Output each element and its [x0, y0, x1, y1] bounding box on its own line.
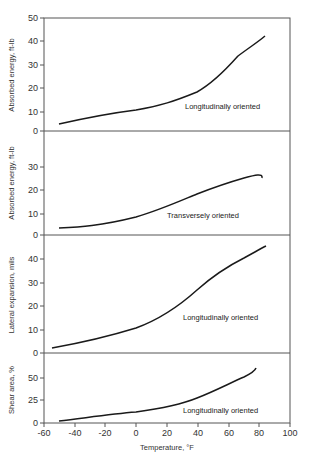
panel-1-annotation: Longitudinally oriented — [185, 102, 260, 111]
svg-text:0: 0 — [33, 348, 38, 358]
y-tick-marks — [40, 18, 44, 423]
panel-4-ylabel: Shear area, % — [7, 366, 16, 414]
svg-text:20: 20 — [28, 83, 38, 93]
panel-3-curve — [52, 246, 266, 348]
x-axis-label: Temperature, °F — [140, 443, 194, 452]
svg-text:20: 20 — [162, 428, 172, 438]
panel-1-ylabel: Absorbed energy, ft-lb — [7, 38, 16, 111]
svg-text:0: 0 — [133, 428, 138, 438]
svg-text:40: 40 — [193, 428, 203, 438]
panel-2-ylabel: Absorbed energy, ft-lb — [7, 146, 16, 219]
svg-text:-40: -40 — [68, 428, 81, 438]
svg-text:-60: -60 — [37, 428, 50, 438]
svg-text:25: 25 — [28, 395, 38, 405]
panel-2-yticks: 30 20 10 0 — [28, 162, 38, 240]
svg-text:0: 0 — [33, 126, 38, 136]
x-tick-marks — [44, 423, 290, 427]
svg-text:40: 40 — [28, 254, 38, 264]
svg-text:-20: -20 — [98, 428, 111, 438]
plot-frame — [44, 18, 290, 423]
svg-text:10: 10 — [28, 209, 38, 219]
x-tick-labels: -60 -40 -20 0 20 40 60 80 100 — [37, 428, 297, 438]
panel-3-annotation: Longitudinally oriented — [183, 313, 258, 322]
svg-text:10: 10 — [28, 325, 38, 335]
svg-text:50: 50 — [28, 373, 38, 383]
svg-text:30: 30 — [28, 278, 38, 288]
panel-3-ylabel: Lateral expansion, mils — [7, 256, 16, 333]
svg-text:20: 20 — [28, 301, 38, 311]
panel-1-yticks: 50 40 30 20 10 0 — [28, 13, 38, 136]
svg-text:40: 40 — [28, 36, 38, 46]
stacked-charpy-chart: 50 40 30 20 10 0 30 20 10 0 40 30 20 10 … — [0, 0, 310, 463]
svg-text:80: 80 — [254, 428, 264, 438]
svg-text:30: 30 — [28, 162, 38, 172]
panel-2-curve — [59, 175, 262, 228]
svg-text:60: 60 — [224, 428, 234, 438]
svg-text:100: 100 — [282, 428, 297, 438]
svg-text:50: 50 — [28, 13, 38, 23]
svg-text:0: 0 — [33, 418, 38, 428]
svg-text:0: 0 — [33, 230, 38, 240]
panel-4-annotation: Longitudinally oriented — [183, 406, 258, 415]
svg-text:10: 10 — [28, 107, 38, 117]
panel-4-yticks: 50 25 0 — [28, 373, 38, 428]
panel-3-yticks: 40 30 20 10 0 — [28, 254, 38, 358]
svg-text:30: 30 — [28, 60, 38, 70]
svg-text:20: 20 — [28, 185, 38, 195]
panel-2-annotation: Transversely oriented — [167, 211, 239, 220]
